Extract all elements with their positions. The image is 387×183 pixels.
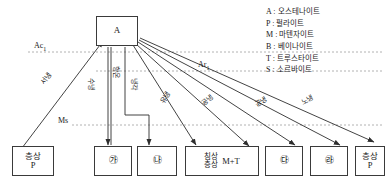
legend-name-m: 마텐자이트: [279, 30, 314, 39]
label-ms-text: Ms: [58, 116, 68, 125]
result-box-7[interactable]: 층상 P: [355, 146, 385, 176]
result-box-2-mark: ㉮: [109, 156, 118, 165]
legend-symbol-b: B: [266, 42, 271, 51]
legend-name-a: 오스테나이트: [278, 7, 320, 16]
legend-name-t: 트루스타이트: [277, 54, 319, 63]
legend-sep-b: :: [273, 42, 275, 51]
result-box-5-mark: ㉰: [280, 156, 289, 165]
label-ac1-sub: 1: [43, 46, 46, 52]
legend-name-b: 베이나이트: [278, 42, 313, 51]
result-box-7-line2: P: [368, 161, 373, 170]
result-box-5[interactable]: ㉰: [265, 146, 303, 176]
result-box-4-label: M+T: [222, 157, 240, 166]
label-ar1-sub: 1: [206, 65, 209, 71]
result-box-1-line2: P: [31, 161, 36, 170]
legend-symbol-s: S: [266, 65, 270, 74]
legend: A : 오스테나이트 P : 펄라이트 M : 마텐자이트 B : 베이나이트 …: [266, 6, 320, 76]
legend-sep-a: :: [273, 7, 275, 16]
label-ms: Ms: [58, 116, 68, 125]
label-ac1-text: Ac: [34, 41, 43, 50]
source-box-label: A: [114, 26, 121, 35]
legend-sep-t: :: [273, 54, 275, 63]
result-box-3-mark: ㉯: [153, 156, 162, 165]
result-box-3[interactable]: ㉯: [137, 146, 177, 176]
result-box-4-line2: 층상: [204, 161, 218, 169]
path-label-isothermal: 항온: [112, 66, 122, 78]
path-label-isothermal-cool: 냉각: [130, 78, 140, 90]
result-box-1[interactable]: 층상 P: [12, 146, 54, 176]
legend-symbol-t: T: [266, 54, 271, 63]
diagram-canvas: A Ac1 Ar1 Ms 서냉 수냉 항온 냉각 유냉 공냉 공냉 노냉 층상 …: [0, 0, 387, 183]
result-box-4[interactable]: 침상 층상 M+T: [185, 146, 259, 176]
path-furnace-cool-2: [140, 38, 374, 142]
legend-row-t: T : 트루스타이트: [266, 53, 320, 65]
result-box-6[interactable]: ㉱: [310, 146, 348, 176]
source-box-austenite[interactable]: A: [96, 16, 138, 46]
result-box-2[interactable]: ㉮: [94, 146, 132, 176]
legend-row-p: P : 펄라이트: [266, 18, 320, 30]
legend-name-s: 소르바이트: [277, 65, 312, 74]
legend-name-p: 펄라이트: [276, 19, 304, 28]
legend-row-s: S : 소르바이트: [266, 64, 320, 76]
path-slow-cool: [22, 41, 103, 148]
legend-row-m: M : 마텐자이트: [266, 29, 320, 41]
legend-symbol-p: P: [266, 19, 270, 28]
label-ac1: Ac1: [34, 41, 46, 52]
path-label-water-cool: 수냉: [87, 78, 97, 90]
legend-row-a: A : 오스테나이트: [266, 6, 320, 18]
legend-row-b: B : 베이나이트: [266, 41, 320, 53]
label-ar1: Ar1: [198, 60, 209, 71]
legend-symbol-a: A: [266, 7, 271, 16]
result-box-4-stack: 침상 층상: [204, 153, 218, 169]
legend-sep-s: :: [272, 65, 274, 74]
legend-symbol-m: M: [266, 30, 273, 39]
path-isothermal: [125, 47, 149, 145]
legend-sep-m: :: [275, 30, 277, 39]
result-box-6-mark: ㉱: [325, 156, 334, 165]
legend-sep-p: :: [272, 19, 274, 28]
path-air-cool: [136, 44, 249, 146]
